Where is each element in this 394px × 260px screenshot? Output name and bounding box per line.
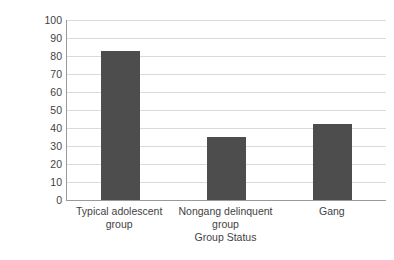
plot-area xyxy=(66,20,386,201)
gridline-0 xyxy=(67,200,386,201)
bar[interactable] xyxy=(101,51,140,200)
gridline-100 xyxy=(67,20,386,21)
y-tick-label: 10 xyxy=(36,177,62,187)
y-tick-label: 0 xyxy=(36,195,62,205)
y-tick-label: 100 xyxy=(36,15,62,25)
y-tick-label: 40 xyxy=(36,123,62,133)
y-tick-label: 70 xyxy=(36,69,62,79)
x-axis-title: Group Status xyxy=(66,231,385,243)
gridline-90 xyxy=(67,38,386,39)
y-tick-label: 50 xyxy=(36,105,62,115)
x-tick-label: Typical adolescent group xyxy=(64,205,174,230)
bar[interactable] xyxy=(313,124,352,200)
y-tick-label: 80 xyxy=(36,51,62,61)
x-tick-label: Gang xyxy=(277,205,387,218)
y-tick-label: 30 xyxy=(36,141,62,151)
y-tick-label: 90 xyxy=(36,33,62,43)
bar[interactable] xyxy=(207,137,246,200)
y-tick-label: 60 xyxy=(36,87,62,97)
y-tick-label: 20 xyxy=(36,159,62,169)
bar-chart: Percent 1009080706050403020100 Typical a… xyxy=(0,0,394,260)
x-tick-label: Nongang delinquent group xyxy=(171,205,281,230)
